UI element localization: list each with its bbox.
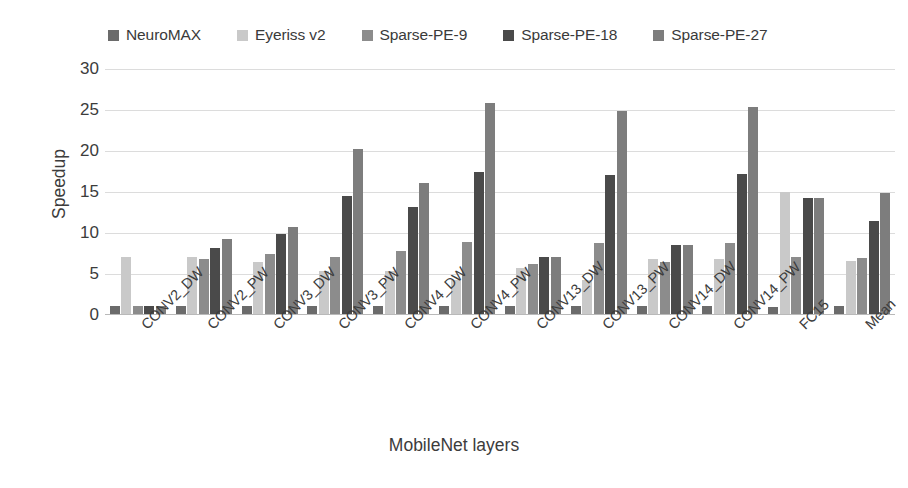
- bar: [880, 193, 890, 314]
- y-axis-tick-label: 20: [63, 141, 99, 161]
- bar: [110, 306, 120, 314]
- bar: [133, 306, 143, 314]
- bar: [846, 261, 856, 314]
- bar: [768, 307, 778, 314]
- chart-figure: NeuroMAXEyeriss v2Sparse-PE-9Sparse-PE-1…: [0, 0, 908, 488]
- bar: [396, 251, 406, 314]
- bar: [342, 196, 352, 314]
- bar: [834, 306, 844, 314]
- bar: [307, 306, 317, 314]
- bar: [571, 306, 581, 314]
- legend-label: Sparse-PE-9: [380, 26, 468, 44]
- legend-item: Sparse-PE-9: [362, 26, 468, 44]
- legend-label: NeuroMAX: [126, 26, 201, 44]
- legend-label: Sparse-PE-27: [671, 26, 767, 44]
- bar: [353, 149, 363, 314]
- bar: [671, 245, 681, 314]
- legend-item: Sparse-PE-18: [503, 26, 617, 44]
- y-axis-tick-label: 15: [63, 182, 99, 202]
- x-axis-tick-slot: CONV2_DW: [105, 315, 171, 420]
- bar: [242, 306, 252, 314]
- bar: [605, 175, 615, 314]
- bar: [857, 258, 867, 314]
- bar: [780, 192, 790, 314]
- bar: [439, 306, 449, 314]
- bar: [330, 257, 340, 314]
- x-axis-tick-slot: CONV2_PW: [171, 315, 237, 420]
- x-axis-tick-slot: CONV3_PW: [302, 315, 368, 420]
- x-axis-tick-slot: CONV4_PW: [434, 315, 500, 420]
- legend-item: Eyeriss v2: [237, 26, 326, 44]
- bar: [408, 207, 418, 314]
- chart-legend: NeuroMAXEyeriss v2Sparse-PE-9Sparse-PE-1…: [108, 22, 898, 48]
- bar: [485, 103, 495, 314]
- y-axis-tick-label: 25: [63, 100, 99, 120]
- bar: [121, 257, 131, 314]
- y-axis-tick-label: 10: [63, 223, 99, 243]
- x-axis-title: MobileNet layers: [0, 435, 908, 456]
- legend-swatch-icon: [362, 30, 373, 41]
- bar: [505, 306, 515, 314]
- bar: [176, 306, 186, 314]
- bar: [617, 111, 627, 314]
- bar: [210, 248, 220, 314]
- x-axis-tick-slot: CONV3_DW: [237, 315, 303, 420]
- x-axis-tick-slot: Mean: [829, 315, 895, 420]
- bar-group: [105, 69, 171, 314]
- legend-item: Sparse-PE-27: [653, 26, 767, 44]
- bar-group: [829, 69, 895, 314]
- x-axis-tick-slot: CONV13_PW: [566, 315, 632, 420]
- y-axis-tick-label: 5: [63, 264, 99, 284]
- bar: [737, 174, 747, 314]
- y-axis-tick-label: 0: [63, 305, 99, 325]
- x-axis-tick-labels: CONV2_DWCONV2_PWCONV3_DWCONV3_PWCONV4_DW…: [105, 315, 895, 420]
- bar: [276, 234, 286, 314]
- legend-item: NeuroMAX: [108, 26, 201, 44]
- legend-swatch-icon: [653, 30, 664, 41]
- x-axis-tick-slot: CONV13_DW: [500, 315, 566, 420]
- bar: [637, 306, 647, 314]
- legend-swatch-icon: [237, 30, 248, 41]
- y-axis: Speedup 051015202530: [55, 69, 99, 315]
- bar: [803, 198, 813, 314]
- x-axis-tick-slot: FC15: [763, 315, 829, 420]
- legend-swatch-icon: [503, 30, 514, 41]
- bar: [373, 306, 383, 314]
- bar: [265, 254, 275, 314]
- y-axis-tick-label: 30: [63, 59, 99, 79]
- legend-swatch-icon: [108, 30, 119, 41]
- x-axis-tick-slot: CONV4_DW: [368, 315, 434, 420]
- bar: [702, 306, 712, 314]
- bar: [474, 172, 484, 314]
- legend-label: Sparse-PE-18: [521, 26, 617, 44]
- bar: [199, 259, 209, 314]
- bar: [869, 221, 879, 314]
- legend-label: Eyeriss v2: [255, 26, 326, 44]
- x-axis-tick-slot: CONV14_DW: [632, 315, 698, 420]
- bar: [748, 107, 758, 314]
- x-axis-tick-slot: CONV14_PW: [697, 315, 763, 420]
